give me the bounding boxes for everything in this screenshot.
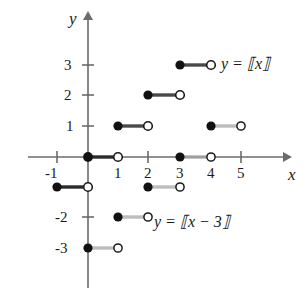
y-tick-label--2: -2 bbox=[55, 210, 68, 225]
x-axis-arrowhead bbox=[283, 152, 292, 162]
segment-y--1 bbox=[52, 182, 92, 191]
open-endpoint-dot bbox=[237, 122, 245, 130]
segment-y-1 bbox=[206, 121, 245, 130]
x-tick-label--1: -1 bbox=[45, 166, 58, 181]
y-axis-label: y bbox=[69, 10, 77, 27]
closed-endpoint-dot bbox=[83, 243, 92, 252]
closed-endpoint-dot bbox=[113, 121, 122, 130]
segment-y--3 bbox=[83, 243, 122, 252]
closed-endpoint-dot bbox=[113, 212, 122, 221]
segment-y-0 bbox=[175, 152, 215, 161]
segment-y--1 bbox=[143, 182, 184, 191]
segment-y-3 bbox=[175, 60, 215, 69]
closed-endpoint-dot bbox=[206, 121, 215, 130]
series-floor-x bbox=[52, 60, 215, 191]
curve-label-floor-x: y = ⟦x⟧ bbox=[221, 56, 270, 72]
x-axis-label: x bbox=[288, 166, 296, 183]
closed-endpoint-dot bbox=[83, 152, 93, 162]
open-endpoint-dot bbox=[144, 122, 153, 131]
segment-y--2 bbox=[113, 212, 152, 221]
x-tick-label-4: 4 bbox=[207, 166, 215, 181]
graph-canvas bbox=[0, 0, 308, 298]
open-endpoint-dot bbox=[114, 244, 122, 252]
axes-group bbox=[28, 11, 292, 288]
x-tick-label-1: 1 bbox=[114, 166, 122, 181]
open-endpoint-dot bbox=[144, 213, 152, 221]
curve-label-floor-x-minus-3: y = ⟦x − 3⟧ bbox=[154, 214, 230, 230]
x-tick-label-5: 5 bbox=[237, 166, 245, 181]
segment-y-0 bbox=[83, 152, 122, 162]
closed-endpoint-dot bbox=[175, 60, 184, 69]
y-tick-label-2: 2 bbox=[64, 88, 72, 103]
x-tick-label-3: 3 bbox=[176, 166, 184, 181]
series-floor-x-minus-3 bbox=[83, 121, 245, 252]
closed-endpoint-dot bbox=[143, 182, 152, 191]
open-endpoint-dot bbox=[207, 61, 216, 70]
closed-endpoint-dot bbox=[143, 90, 152, 99]
open-endpoint-dot bbox=[176, 91, 185, 100]
y-tick-label--3: -3 bbox=[55, 241, 68, 256]
y-axis-arrowhead bbox=[83, 11, 93, 20]
open-endpoint-dot bbox=[207, 153, 215, 161]
closed-endpoint-dot bbox=[175, 152, 184, 161]
x-tick-label-2: 2 bbox=[144, 166, 152, 181]
closed-endpoint-dot bbox=[52, 182, 61, 191]
open-endpoint-dot bbox=[114, 153, 123, 162]
step-function-figure: y x 3 2 1 -2 -3 -1 1 2 3 4 5 y = ⟦x⟧ y =… bbox=[0, 0, 308, 298]
open-endpoint-dot bbox=[84, 183, 93, 192]
y-tick-label-3: 3 bbox=[64, 58, 72, 73]
segment-y-1 bbox=[113, 121, 152, 130]
y-tick-label-1: 1 bbox=[66, 119, 74, 134]
segment-y-2 bbox=[143, 90, 184, 99]
open-endpoint-dot bbox=[176, 183, 184, 191]
